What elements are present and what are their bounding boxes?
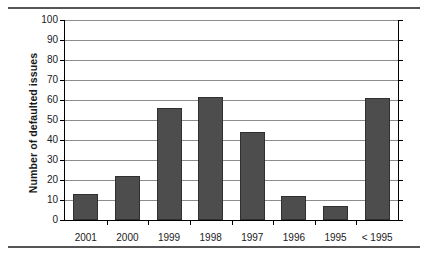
gridline: [65, 40, 398, 41]
gridline: [65, 160, 398, 161]
gridline: [65, 100, 398, 101]
y-axis-tick-label: 80: [47, 55, 58, 65]
page-rule-top: [8, 7, 420, 9]
gridline: [65, 140, 398, 141]
y-axis-tick-label: 100: [41, 15, 58, 25]
y-axis-tick-label: 70: [47, 75, 58, 85]
gridline: [65, 80, 398, 81]
x-axis-tick-label: 1998: [200, 232, 222, 243]
x-axis-tick-label: 1999: [158, 232, 180, 243]
bar: [323, 206, 348, 220]
y-axis-line: [64, 20, 65, 221]
gridline: [65, 120, 398, 121]
page-rule-bottom: [8, 246, 420, 248]
y-axis-tick-label: 0: [52, 215, 58, 225]
y-axis-tick-label: 10: [47, 195, 58, 205]
x-axis-tick-label: 1996: [283, 232, 305, 243]
gridline: [65, 60, 398, 61]
bar: [198, 97, 223, 220]
x-axis-tick-label: 1995: [324, 232, 346, 243]
bar: [115, 176, 140, 220]
x-axis-line: [64, 220, 399, 221]
bar: [73, 194, 98, 220]
bar: [281, 196, 306, 220]
bar: [240, 132, 265, 220]
x-axis-tick-label: 2000: [116, 232, 138, 243]
y-axis-tick-label: 40: [47, 135, 58, 145]
bar: [365, 98, 390, 220]
y-axis-tick-label: 20: [47, 175, 58, 185]
bar-chart-figure: Number of defaulted issues 0102030405060…: [0, 0, 428, 256]
y-axis-tick-label: 60: [47, 95, 58, 105]
right-axis-line: [398, 20, 399, 221]
x-axis-tick-label: 1997: [241, 232, 263, 243]
y-axis-tick-label: 90: [47, 35, 58, 45]
x-axis-tick-label: < 1995: [362, 232, 393, 243]
plot-area: 0102030405060708090100 20012000199919981…: [65, 20, 398, 220]
bar: [157, 108, 182, 220]
y-axis-tick-label: 50: [47, 115, 58, 125]
gridline: [65, 20, 398, 21]
x-axis-tick-label: 2001: [75, 232, 97, 243]
y-axis-tick-label: 30: [47, 155, 58, 165]
y-axis-title: Number of defaulted issues: [27, 23, 39, 223]
